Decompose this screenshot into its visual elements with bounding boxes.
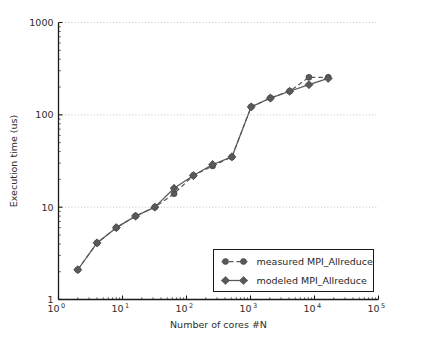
legend-entry-modeled[interactable]: modeled MPI_Allreduce bbox=[221, 275, 367, 286]
y-tick-label: 100 bbox=[35, 109, 53, 120]
chart-figure: 100101102103104105 1101001000 Number of … bbox=[0, 0, 423, 340]
x-tick-exponent: 0 bbox=[61, 302, 65, 310]
x-tick-label: 10 bbox=[367, 303, 379, 314]
data-point-marker bbox=[241, 259, 247, 265]
legend-label: measured MPI_Allreduce bbox=[257, 256, 374, 267]
y-tick-label: 1 bbox=[47, 294, 53, 305]
y-tick-label: 1000 bbox=[29, 17, 53, 28]
x-axis-title: Number of cores #N bbox=[170, 319, 267, 330]
data-point-marker bbox=[223, 259, 229, 265]
x-tick-exponent: 4 bbox=[317, 302, 321, 310]
x-tick-exponent: 5 bbox=[381, 302, 385, 310]
x-tick-label: 10 bbox=[111, 303, 123, 314]
x-tick-label: 10 bbox=[303, 303, 315, 314]
x-tick-exponent: 2 bbox=[189, 302, 193, 310]
y-tick-label: 10 bbox=[41, 202, 53, 213]
x-tick-exponent: 1 bbox=[125, 302, 129, 310]
data-point-marker bbox=[306, 74, 312, 80]
x-tick-label: 10 bbox=[239, 303, 251, 314]
legend-label: modeled MPI_Allreduce bbox=[257, 275, 368, 286]
y-axis-title: Execution time (us) bbox=[8, 115, 19, 208]
x-tick-label: 10 bbox=[175, 303, 187, 314]
execution-time-vs-cores-chart: 100101102103104105 1101001000 Number of … bbox=[0, 0, 423, 340]
chart-legend: measured MPI_Allreducemodeled MPI_Allred… bbox=[214, 250, 374, 292]
x-tick-exponent: 3 bbox=[253, 302, 257, 310]
